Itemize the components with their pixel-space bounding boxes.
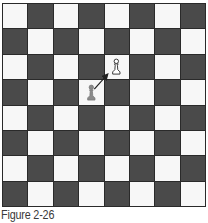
- board-square: [155, 80, 179, 104]
- board-square: [79, 55, 103, 79]
- board-square: [181, 80, 205, 104]
- board-square: [54, 156, 78, 180]
- board-square: [155, 156, 179, 180]
- board-square: [181, 131, 205, 155]
- board-square: [105, 182, 129, 206]
- gray-pawn-icon: [79, 80, 103, 104]
- board-square: [3, 80, 27, 104]
- board-square: [28, 80, 52, 104]
- board-square: [79, 29, 103, 53]
- board-square: [155, 106, 179, 130]
- board-square: [130, 80, 154, 104]
- board-square: [155, 55, 179, 79]
- board-square: [130, 106, 154, 130]
- board-square: [28, 131, 52, 155]
- board-square: [54, 29, 78, 53]
- board-square: [181, 29, 205, 53]
- board-square: [130, 131, 154, 155]
- board-square: [130, 55, 154, 79]
- board-square: [54, 4, 78, 28]
- board-square: [155, 182, 179, 206]
- board-square: [28, 182, 52, 206]
- board-square: [79, 156, 103, 180]
- figure-caption: Figure 2-26: [1, 208, 54, 222]
- board-square: [105, 106, 129, 130]
- board-square: [181, 106, 205, 130]
- board-square: [79, 131, 103, 155]
- board-square: [181, 182, 205, 206]
- board-square: [105, 156, 129, 180]
- board-square: [3, 131, 27, 155]
- board-square: [54, 80, 78, 104]
- board-square: [3, 4, 27, 28]
- board-square: [3, 182, 27, 206]
- board-square: [105, 4, 129, 28]
- white-pawn-icon: [105, 55, 129, 79]
- board-square: [130, 4, 154, 28]
- board-square: [181, 55, 205, 79]
- board-square: [130, 156, 154, 180]
- board-square: [3, 29, 27, 53]
- board-square: [130, 29, 154, 53]
- board-square: [79, 4, 103, 28]
- board-square: [3, 156, 27, 180]
- board-square: [155, 131, 179, 155]
- board-square: [105, 131, 129, 155]
- board-square: [181, 4, 205, 28]
- board-square: [181, 156, 205, 180]
- board-square: [28, 4, 52, 28]
- board-square: [105, 29, 129, 53]
- board-square: [155, 4, 179, 28]
- board-square: [28, 29, 52, 53]
- board-square: [54, 55, 78, 79]
- board-square: [54, 182, 78, 206]
- board-square: [3, 106, 27, 130]
- board-square: [79, 80, 103, 104]
- chess-board: [2, 3, 206, 207]
- board-square: [155, 29, 179, 53]
- board-square: [130, 182, 154, 206]
- board-square: [54, 131, 78, 155]
- board-square: [28, 55, 52, 79]
- board-square: [54, 106, 78, 130]
- board-square: [79, 182, 103, 206]
- board-square: [3, 55, 27, 79]
- board-square: [79, 106, 103, 130]
- board-square: [28, 106, 52, 130]
- board-square: [105, 55, 129, 79]
- board-square: [28, 156, 52, 180]
- board-square: [105, 80, 129, 104]
